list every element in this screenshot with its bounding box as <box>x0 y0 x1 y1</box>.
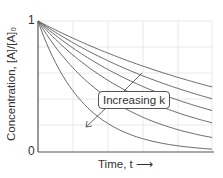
y-tick-0: 0 <box>28 144 35 158</box>
arrow-line-lower <box>86 108 106 127</box>
y-tick-1: 1 <box>28 13 35 27</box>
decay-curves <box>38 21 212 149</box>
arrow-line-upper <box>122 73 142 93</box>
increasing-k-annotation: Increasing k <box>98 91 170 109</box>
x-axis-label: Time, t ⟶ <box>98 157 153 171</box>
y-axis-label: Concentration, [A]/[A]₀ <box>5 9 17 159</box>
curve-k6 <box>38 21 212 149</box>
x-axis-label-text: Time, t ⟶ <box>98 158 153 170</box>
